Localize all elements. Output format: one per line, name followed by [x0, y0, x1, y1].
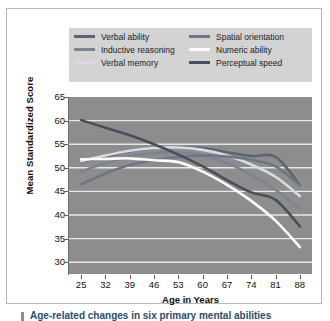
- y-axis-tick-label: 30: [43, 257, 65, 266]
- x-axis-tick-labels: 25323946536067748188: [69, 279, 312, 293]
- legend-item: Verbal memory: [74, 56, 175, 69]
- legend-column-left: Verbal abilityInductive reasoningVerbal …: [74, 30, 175, 69]
- x-axis-tick-label: 67: [215, 279, 239, 290]
- x-axis-tick-label: 60: [191, 279, 215, 290]
- plot-area-wrapper: [69, 97, 312, 274]
- legend-item: Verbal ability: [74, 30, 175, 43]
- line-swatch: [74, 61, 95, 64]
- legend-item-label: Perceptual speed: [216, 58, 282, 68]
- chart-svg: [69, 97, 312, 274]
- y-axis-tick-label: 50: [43, 163, 65, 172]
- x-axis-tick-label: 53: [166, 279, 190, 290]
- legend-item: Numeric ability: [189, 43, 284, 56]
- x-axis-tick-label: 32: [93, 279, 117, 290]
- legend-item: Inductive reasoning: [74, 43, 175, 56]
- figure-caption-strip: Age-related changes in six primary menta…: [0, 310, 330, 321]
- legend-item: Perceptual speed: [189, 56, 284, 69]
- legend-item: Spatial orientation: [189, 30, 284, 43]
- legend-item-label: Inductive reasoning: [101, 45, 175, 55]
- x-axis-tick-label: 46: [142, 279, 166, 290]
- y-axis-tick-label: 65: [43, 92, 65, 101]
- x-axis-tick-label: 25: [69, 279, 93, 290]
- figure-caption: Age-related changes in six primary menta…: [30, 311, 271, 321]
- x-axis-tick-label: 74: [239, 279, 263, 290]
- legend-item-label: Spatial orientation: [216, 32, 284, 42]
- chart-legend: Verbal abilityInductive reasoningVerbal …: [69, 28, 312, 82]
- legend-item-label: Numeric ability: [216, 45, 272, 55]
- caption-accent-bar: [21, 312, 24, 321]
- y-axis-tick-label: 35: [43, 234, 65, 243]
- y-axis-tick-labels: 3035404550556065: [40, 9, 65, 321]
- line-swatch: [74, 48, 95, 51]
- line-swatch: [189, 61, 210, 64]
- legend-column-right: Spatial orientationNumeric abilityPercep…: [189, 30, 284, 69]
- x-axis-tick-label: 81: [264, 279, 288, 290]
- y-axis-title: Mean Standardized Score: [24, 71, 35, 201]
- y-axis-tick-label: 60: [43, 116, 65, 125]
- x-axis-title: Age in Years: [69, 294, 312, 305]
- figure-panel: Verbal abilityInductive reasoningVerbal …: [6, 8, 322, 304]
- legend-item-label: Verbal memory: [101, 58, 158, 68]
- y-axis-tick-label: 45: [43, 186, 65, 195]
- y-axis-tick-label: 40: [43, 210, 65, 219]
- figure: Verbal abilityInductive reasoningVerbal …: [0, 0, 330, 321]
- line-swatch: [189, 35, 210, 38]
- plot-area: [69, 97, 312, 274]
- legend-item-label: Verbal ability: [101, 32, 149, 42]
- x-axis-tick-label: 88: [288, 279, 312, 290]
- line-swatch: [189, 48, 210, 51]
- line-swatch: [74, 35, 95, 38]
- x-axis-tick-label: 39: [118, 279, 142, 290]
- y-axis-tick-label: 55: [43, 139, 65, 148]
